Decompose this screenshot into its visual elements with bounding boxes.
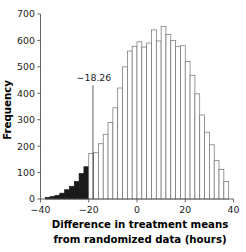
x-axis-label-line-2: from randomized data (hours) — [53, 234, 226, 245]
y-tick-label: 100 — [17, 167, 35, 178]
histogram-bar — [147, 43, 152, 199]
histogram-bar — [69, 186, 74, 199]
histogram-bar — [84, 167, 89, 199]
histogram-bar — [108, 122, 113, 199]
histogram-bar — [65, 190, 70, 199]
x-tick-label: 20 — [179, 204, 191, 215]
x-tick-label: 40 — [228, 204, 240, 215]
y-tick-label: 400 — [17, 88, 35, 99]
histogram-bar — [60, 193, 65, 199]
y-axis-label: Frequency — [2, 80, 13, 140]
x-tick-label: −20 — [79, 204, 99, 215]
histogram-bar — [200, 115, 205, 199]
histogram-bar — [195, 94, 200, 199]
histogram-bar — [156, 41, 161, 199]
y-tick-label: 700 — [17, 8, 35, 19]
histogram-bar — [132, 46, 137, 199]
histogram-bar — [166, 35, 171, 199]
histogram-bar — [151, 30, 156, 199]
histogram-bar — [103, 134, 108, 199]
histogram-bar — [74, 182, 79, 199]
histogram-bar — [142, 47, 147, 199]
histogram-bar — [123, 67, 128, 199]
y-tick-label: 200 — [17, 141, 35, 152]
histogram-bar — [205, 132, 210, 199]
histogram-bar — [219, 169, 224, 199]
y-tick-label: 0 — [29, 193, 35, 204]
histogram-bar — [79, 174, 84, 199]
histogram-figure: 0100200300400500600700−40−2002040 −18.26… — [0, 0, 246, 252]
histogram-bar — [185, 62, 190, 199]
histogram-bar — [127, 51, 132, 199]
x-tick-label: 0 — [134, 204, 140, 215]
histogram-bars — [45, 26, 228, 199]
x-axis-label-line-1: Difference in treatment means — [52, 219, 229, 230]
histogram-bar — [98, 144, 103, 199]
histogram-bar — [224, 182, 229, 199]
histogram-bar — [137, 42, 142, 199]
histogram-bar — [118, 88, 123, 199]
histogram-bar — [94, 153, 99, 199]
y-tick-label: 500 — [17, 61, 35, 72]
histogram-bar — [113, 108, 118, 199]
histogram-bar — [171, 40, 176, 199]
histogram-bar — [190, 75, 195, 199]
histogram-chart: 0100200300400500600700−40−2002040 −18.26… — [0, 0, 246, 252]
histogram-bar — [214, 161, 219, 199]
x-tick-label: −40 — [31, 204, 51, 215]
annotation-label: −18.26 — [77, 72, 112, 83]
y-tick-label: 600 — [17, 35, 35, 46]
histogram-bar — [55, 195, 60, 199]
histogram-bar — [161, 26, 166, 199]
y-tick-label: 300 — [17, 114, 35, 125]
histogram-bar — [180, 46, 185, 199]
histogram-bar — [176, 46, 181, 199]
histogram-bar — [209, 145, 214, 199]
